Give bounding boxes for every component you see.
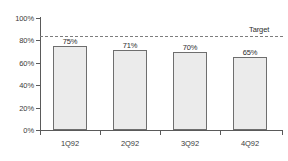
y-axis-line [40, 17, 41, 131]
target-line-label: Target [249, 25, 269, 34]
x-axis-tick [100, 131, 101, 135]
bar-value-label-1q92: 75% [46, 37, 94, 46]
bar-1q92 [53, 46, 87, 130]
bar-2q92 [113, 50, 147, 130]
y-axis-tick [36, 40, 41, 41]
bar-value-label-2q92: 71% [106, 41, 154, 50]
x-axis-tick-label-4q92: 4Q92 [226, 139, 274, 148]
bar-4q92 [233, 57, 267, 130]
x-axis-tick [220, 131, 221, 135]
y-axis-tick-label: 60% [4, 59, 34, 68]
x-axis-tick [160, 131, 161, 135]
target-reference-line [40, 36, 283, 37]
bar-3q92 [173, 52, 207, 130]
y-axis-tick-label: 80% [4, 36, 34, 45]
bar-chart: 100% 80% 60% 40% 20% 0% 1Q92 2Q92 3Q92 4… [0, 0, 288, 161]
y-axis-tick [36, 85, 41, 86]
y-axis-tick-label: 0% [4, 126, 34, 135]
x-axis-tick [282, 131, 283, 135]
x-axis-tick [40, 131, 41, 135]
bar-value-label-3q92: 70% [166, 43, 214, 52]
bar-value-label-4q92: 65% [226, 48, 274, 57]
y-axis-tick-label: 40% [4, 81, 34, 90]
y-axis-tick-label: 20% [4, 104, 34, 113]
y-axis-tick [36, 18, 41, 19]
y-axis-tick [36, 108, 41, 109]
y-axis-tick-label: 100% [4, 14, 34, 23]
y-axis-tick [36, 63, 41, 64]
x-axis-tick-label-1q92: 1Q92 [46, 139, 94, 148]
x-axis-line [40, 130, 283, 131]
x-axis-tick-label-3q92: 3Q92 [166, 139, 214, 148]
x-axis-tick-label-2q92: 2Q92 [106, 139, 154, 148]
